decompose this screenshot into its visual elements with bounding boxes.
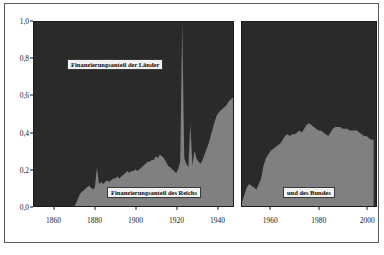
x-tick-label: 1920 [169,216,184,225]
chart-panel-left [33,21,234,207]
y-tick-label: 0,2 [20,165,29,174]
y-tick-mark [30,132,33,133]
x-tick-mark [94,207,95,210]
y-tick-label: 0,6 [20,91,29,100]
x-tick-label: 1860 [46,216,61,225]
x-tick-label: 2000 [360,216,375,225]
x-tick-mark [176,207,177,210]
figure-root: Finanzierungsanteil der Länder Finanzier… [0,0,384,255]
x-tick-label: 1960 [263,216,278,225]
plot-area: Finanzierungsanteil der Länder Finanzier… [33,21,377,207]
x-tick-label: 1980 [311,216,326,225]
area-chart-right [242,22,376,206]
y-tick-label: 0,4 [20,128,29,137]
y-tick-mark [30,95,33,96]
y-tick-mark [30,207,33,208]
y-tick-label: 0,8 [20,54,29,63]
chart-panel-right [241,21,377,207]
x-tick-label: 1900 [128,216,143,225]
area-chart-left [34,22,233,206]
x-tick-label: 1880 [87,216,102,225]
annotation-reich: Finanzierungsanteil des Reichs [107,187,201,198]
x-tick-mark [217,207,218,210]
annotation-laender: Finanzierungsanteil der Länder [67,59,163,70]
y-tick-mark [30,169,33,170]
y-tick-mark [30,21,33,22]
y-tick-label: 1,0 [20,17,29,26]
x-tick-mark [270,207,271,210]
x-tick-mark [367,207,368,210]
y-tick-label: 0,0 [20,203,29,212]
x-tick-mark [318,207,319,210]
x-tick-mark [53,207,54,210]
x-tick-mark [135,207,136,210]
y-tick-mark [30,58,33,59]
x-tick-label: 1940 [210,216,225,225]
figure-frame: Finanzierungsanteil der Länder Finanzier… [4,3,379,243]
annotation-bund: und des Bundes [283,187,335,198]
